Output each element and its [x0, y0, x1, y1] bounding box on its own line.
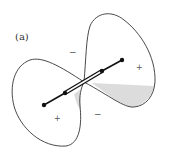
plus-sign-right: +: [136, 63, 143, 72]
orbital-lobe-diagram: (a) − − + +: [0, 0, 169, 150]
minus-sign-bottom: −: [94, 109, 102, 119]
minus-sign-top: −: [69, 47, 77, 57]
atom-dot-left-end: [42, 103, 46, 107]
plus-sign-left: +: [54, 114, 61, 123]
panel-label: (a): [15, 31, 29, 42]
rod-middle-inner: [65, 71, 102, 93]
atom-dot-right-end: [120, 58, 124, 62]
atom-dot-right-inner: [100, 69, 104, 73]
rod-left-segment: [44, 93, 65, 105]
rod-right-segment: [102, 60, 122, 71]
atom-dot-left-inner: [63, 91, 67, 95]
